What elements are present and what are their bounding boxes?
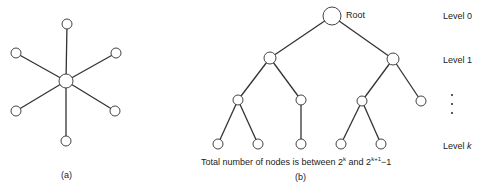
- star-leaf-node: [11, 48, 21, 58]
- tree-node: [336, 139, 346, 149]
- star-leaf-node: [111, 48, 121, 58]
- star-leaf-node: [62, 19, 72, 29]
- tree-edge: [341, 101, 362, 144]
- tree-node: [233, 95, 243, 105]
- tree-node: [387, 53, 399, 65]
- tree-edge: [332, 16, 393, 59]
- caption-a: (a): [61, 171, 72, 180]
- summary-mid: and 2: [346, 157, 371, 167]
- star-edge: [66, 81, 115, 111]
- level-k-label: Level k: [443, 142, 472, 151]
- node-count-summary: Total number of nodes is between 2k and …: [201, 156, 391, 167]
- tree-edge: [270, 16, 332, 58]
- summary-end: −1: [381, 157, 391, 167]
- tree-edge: [393, 59, 421, 101]
- tree-node: [253, 139, 263, 149]
- tree-node: [357, 96, 367, 106]
- level-k-prefix: Level: [443, 141, 467, 151]
- tree-root-node: [323, 7, 341, 25]
- caption-b: (b): [295, 173, 306, 182]
- tree-edge: [238, 100, 258, 144]
- star-center-node: [59, 74, 73, 88]
- tree-edge: [362, 59, 393, 101]
- tree-edge: [218, 100, 238, 144]
- tree-edge: [362, 101, 381, 144]
- star-leaf-node: [110, 106, 120, 116]
- level-1-label: Level 1: [443, 56, 472, 65]
- star-leaf-node: [11, 106, 21, 116]
- ellipsis-dot: [451, 94, 453, 96]
- tree-edge: [270, 58, 301, 100]
- star-edge: [16, 53, 66, 81]
- star-edge: [66, 24, 67, 81]
- level-0-label: Level 0: [443, 12, 472, 21]
- star-leaf-node: [61, 136, 71, 146]
- star-edge: [66, 53, 116, 81]
- summary-exp-k1: k+1: [371, 156, 381, 162]
- tree-node: [296, 139, 306, 149]
- star-edge: [16, 81, 66, 111]
- tree-node: [296, 95, 306, 105]
- ellipsis-dot: [451, 112, 453, 114]
- tree-node: [416, 96, 426, 106]
- tree-node: [376, 139, 386, 149]
- level-k-var: k: [467, 141, 472, 151]
- tree-node: [213, 139, 223, 149]
- tree-edge: [238, 58, 270, 100]
- summary-text: Total number of nodes is between 2: [201, 157, 343, 167]
- ellipsis-dot: [451, 103, 453, 105]
- root-label: Root: [346, 11, 365, 20]
- tree-node: [264, 52, 276, 64]
